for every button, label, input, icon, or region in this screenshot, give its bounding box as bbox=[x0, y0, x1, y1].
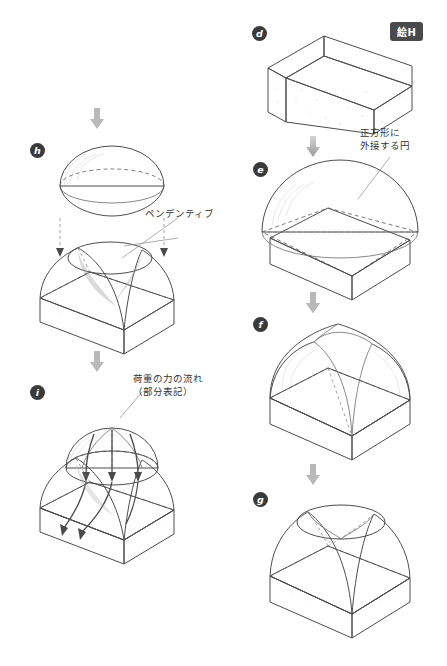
stage-marker-i: i bbox=[30, 385, 45, 400]
leader-line-circumscribed-circle bbox=[350, 155, 410, 215]
arrow-to-h-icon bbox=[89, 108, 105, 130]
annotation-pendentive: ペンデンティブ bbox=[145, 207, 214, 220]
stage-f-diagram bbox=[252, 318, 427, 463]
stage-marker-f: f bbox=[253, 317, 268, 332]
stage-marker-e: e bbox=[253, 162, 268, 177]
stage-marker-d: d bbox=[252, 26, 267, 41]
stage-marker-g: g bbox=[253, 492, 268, 507]
arrow-d-to-e-icon bbox=[305, 136, 321, 158]
arrow-e-to-f-icon bbox=[305, 292, 321, 314]
annotation-load-flow: 荷重の力の流れ （部分表記） bbox=[133, 372, 203, 398]
arrow-f-to-g-icon bbox=[305, 464, 321, 486]
stage-marker-h: h bbox=[30, 143, 45, 158]
leader-line-pendentive bbox=[118, 216, 190, 264]
stage-g-diagram bbox=[252, 492, 427, 642]
arrow-h-to-i-icon bbox=[89, 351, 105, 373]
annotation-circumscribed-circle: 正方形に 外接する円 bbox=[360, 126, 410, 152]
stage-d-diagram bbox=[262, 30, 432, 140]
